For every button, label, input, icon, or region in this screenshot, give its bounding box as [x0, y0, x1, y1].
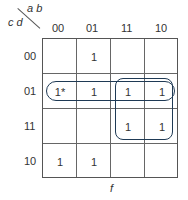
row-header-11: 11	[24, 120, 35, 132]
row-header-01: 01	[24, 85, 36, 97]
cell-10-00: 1	[43, 144, 77, 179]
cell-10-01: 1	[77, 144, 111, 179]
cell-00-01: 1	[77, 39, 111, 74]
col-header-11: 11	[121, 22, 132, 34]
col-header-00: 00	[52, 22, 64, 34]
col-header-10: 10	[155, 22, 167, 34]
kmap-grid: 1 1* 1 1 1 1 1 1 1	[42, 38, 178, 178]
quad-group-loop	[115, 78, 173, 140]
row-header-00: 00	[24, 50, 36, 62]
col-header-01: 01	[86, 22, 98, 34]
cell-10-11	[111, 144, 145, 179]
row-var-label: c d	[8, 16, 23, 28]
cell-10-10	[145, 144, 179, 179]
cell-00-10	[145, 39, 179, 74]
row-header-10: 10	[24, 155, 36, 167]
cell-11-00	[43, 109, 77, 144]
col-var-label: a b	[27, 2, 42, 14]
cell-00-00	[43, 39, 77, 74]
cell-00-11	[111, 39, 145, 74]
cell-11-01	[77, 109, 111, 144]
function-label: f	[110, 182, 113, 194]
